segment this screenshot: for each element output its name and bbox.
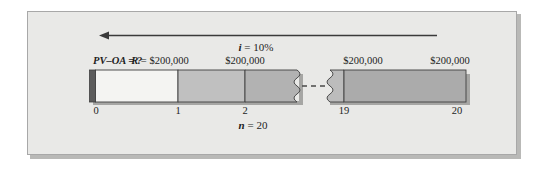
segment-break-19 — [327, 70, 344, 102]
periods-label: n = 20 — [239, 120, 268, 131]
tick-label-2: 2 — [242, 105, 247, 116]
segment-19-20 — [344, 70, 466, 102]
tick-label-1: 1 — [175, 105, 180, 116]
interest-arrow-icon — [99, 32, 437, 40]
tick-label-20: 20 — [452, 105, 463, 116]
periods-symbol: n — [239, 119, 245, 131]
cash-flow-amount-20: $200,000 — [430, 56, 469, 67]
annuity-timeline-figure: i = 10% PV–OA = ? R = $200,000 $200,000 … — [0, 0, 542, 171]
rent-value: = $200,000 — [141, 55, 189, 66]
pv-end-cap — [90, 70, 96, 102]
periods-value: = 20 — [247, 119, 267, 131]
segment-0-1 — [96, 70, 179, 102]
rent-symbol: R — [131, 55, 138, 66]
rent-label: R = $200,000 — [131, 56, 189, 67]
interest-rate-label: i = 10% — [239, 42, 274, 53]
segment-2-break — [245, 70, 300, 102]
segment-1-2 — [178, 70, 245, 102]
timeline-bar-right — [327, 70, 470, 105]
tick-label-0: 0 — [93, 105, 98, 116]
timeline-bar-left — [90, 70, 304, 105]
cash-flow-amount-19: $200,000 — [343, 56, 382, 67]
interest-rate-value: = 10% — [244, 41, 273, 53]
tick-label-19: 19 — [339, 105, 350, 116]
interest-rate-symbol: i — [239, 41, 242, 53]
timeline-graphics — [0, 0, 542, 171]
cash-flow-amount-2: $200,000 — [225, 56, 264, 67]
